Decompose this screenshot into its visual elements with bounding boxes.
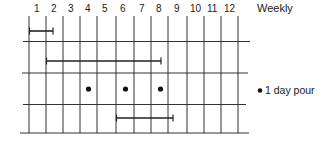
horizontal-grid-lines: [20, 42, 250, 134]
week-label-7: 7: [139, 3, 145, 14]
week-label-8: 8: [156, 3, 162, 14]
legend: 1 day pour: [258, 84, 315, 96]
legend-dot-icon: [258, 88, 263, 93]
pour-dot: [86, 86, 91, 91]
pour-dot: [123, 86, 128, 91]
weekly-schedule-diagram: 1 2 3 4 5 6 7 8 9 10 11 12 Weekly: [0, 0, 327, 144]
week-label-12: 12: [224, 3, 236, 14]
week-label-11: 11: [207, 3, 218, 14]
week-label-9: 9: [174, 3, 180, 14]
week-label-1: 1: [34, 3, 40, 14]
legend-label: 1 day pour: [265, 84, 315, 96]
row-4-duration-bar: [116, 115, 173, 122]
row-1-duration-bar: [29, 28, 53, 35]
week-label-4: 4: [85, 3, 91, 14]
week-label-3: 3: [68, 3, 74, 14]
week-label-6: 6: [120, 3, 126, 14]
weekly-title: Weekly: [257, 2, 293, 14]
vertical-grid-lines: [29, 16, 238, 133]
week-label-2: 2: [51, 3, 57, 14]
week-labels: 1 2 3 4 5 6 7 8 9 10 11 12 Weekly: [34, 2, 293, 14]
week-label-10: 10: [190, 3, 202, 14]
pour-dot: [158, 86, 163, 91]
week-label-5: 5: [102, 3, 108, 14]
